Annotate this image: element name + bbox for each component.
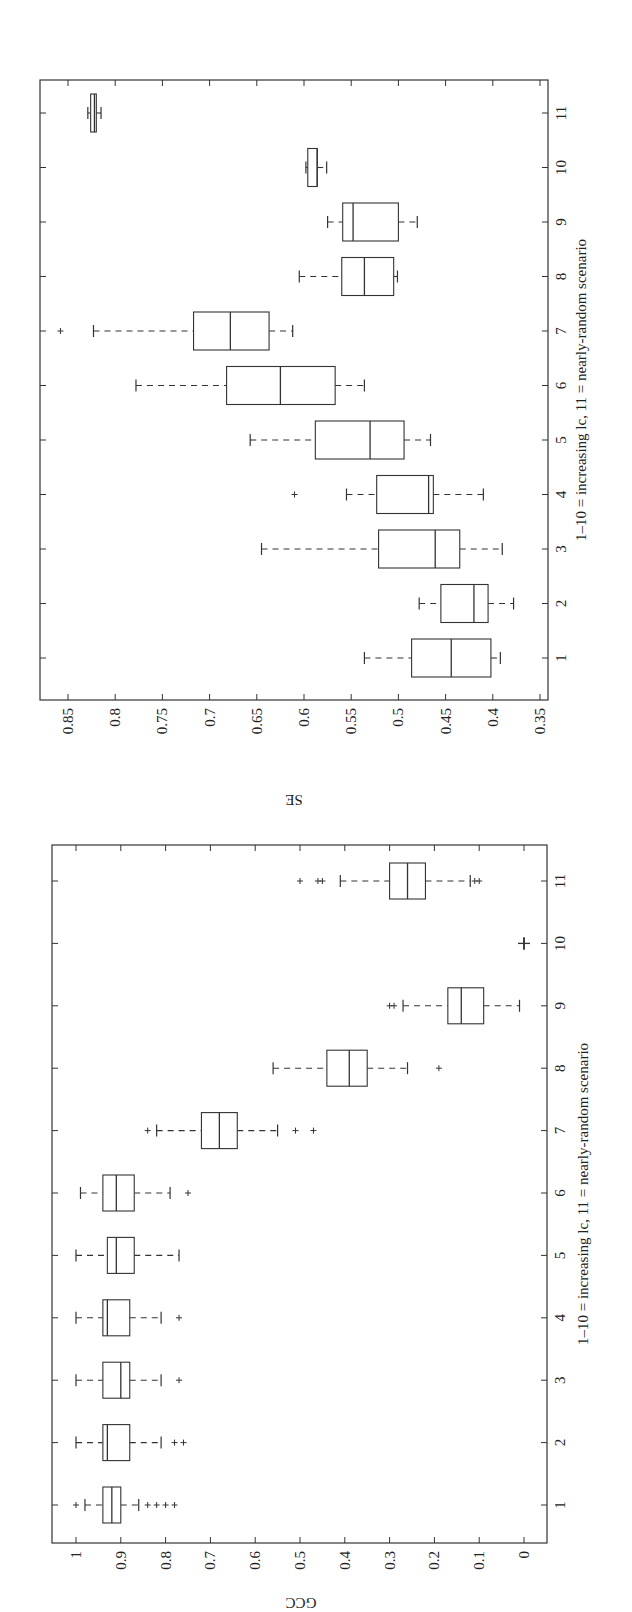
value-tick-label: 0.8 <box>158 1551 174 1570</box>
category-tick-label: 6 <box>552 1189 568 1197</box>
se-box-plot: 0.350.40.450.50.550.60.650.70.750.80.85 … <box>40 80 589 808</box>
value-tick-label: 0.1 <box>471 1551 487 1570</box>
category-tick-label: 10 <box>553 160 569 175</box>
value-tick-label: 0.85 <box>60 708 76 734</box>
box-7 <box>145 1113 317 1149</box>
value-tick-label: 0.5 <box>390 708 406 727</box>
box-9 <box>387 988 520 1024</box>
box-1 <box>364 639 500 677</box>
box-10 <box>306 149 327 187</box>
category-tick-label: 9 <box>552 1002 568 1010</box>
category-tick-label: 1 <box>553 654 569 662</box>
box-iqr <box>308 149 317 187</box>
gcc-category-axis-label: 1–10 = increasing lc, 11 = nearly-random… <box>575 1043 591 1345</box>
value-tick-label: 0.6 <box>247 1551 263 1570</box>
se-value-axis-ticks: 0.350.40.450.50.550.60.650.70.750.80.85 <box>60 80 548 734</box>
category-tick-label: 11 <box>552 874 568 888</box>
box-iqr <box>379 530 460 568</box>
box-9 <box>328 203 418 241</box>
box-2 <box>76 1425 187 1461</box>
category-tick-label: 5 <box>552 1252 568 1260</box>
box-iqr <box>194 312 270 350</box>
value-tick-label: 0.5 <box>292 1551 308 1570</box>
se-category-axis-label: 1–10 = increasing lc, 11 = nearly-random… <box>573 239 589 541</box>
box-iqr <box>448 988 484 1024</box>
value-tick-label: 0.6 <box>296 708 312 727</box>
box-1 <box>73 1487 178 1523</box>
box-3 <box>76 1362 182 1398</box>
se-boxes <box>57 94 513 677</box>
box-5 <box>76 1237 179 1273</box>
box-4 <box>292 476 484 514</box>
box-iqr <box>107 1237 134 1273</box>
category-tick-label: 11 <box>553 106 569 120</box>
value-tick-label: 0 <box>516 1551 532 1559</box>
value-tick-label: 0.55 <box>343 708 359 734</box>
category-tick-label: 3 <box>553 545 569 553</box>
category-tick-label: 4 <box>552 1314 568 1322</box>
value-tick-label: 0.7 <box>202 708 218 727</box>
se-axis-label: SE <box>285 792 303 808</box>
value-tick-label: 0.75 <box>154 708 170 734</box>
value-tick-label: 0.9 <box>113 1551 129 1570</box>
box-7 <box>57 312 292 350</box>
value-tick-label: 1 <box>68 1551 84 1559</box>
value-tick-label: 0.2 <box>426 1551 442 1570</box>
box-10 <box>518 937 530 949</box>
category-tick-label: 4 <box>553 490 569 498</box>
box-iqr <box>343 203 399 241</box>
value-tick-label: 0.35 <box>532 708 548 734</box>
value-tick-label: 0.4 <box>337 1551 353 1570</box>
box-iqr <box>103 1175 134 1211</box>
box-8 <box>299 258 397 296</box>
box-4 <box>76 1300 182 1336</box>
box-plots-figure: 0.350.40.450.50.550.60.650.70.750.80.85 … <box>0 0 632 1612</box>
box-3 <box>262 530 503 568</box>
category-tick-label: 5 <box>553 436 569 444</box>
box-iqr <box>342 258 394 296</box>
category-tick-label: 7 <box>553 327 569 335</box>
box-iqr <box>103 1362 130 1398</box>
value-tick-label: 0.8 <box>107 708 123 727</box>
value-tick-label: 0.3 <box>382 1551 398 1570</box>
category-tick-label: 1 <box>552 1501 568 1509</box>
box-2 <box>419 585 513 623</box>
box-iqr <box>91 94 97 132</box>
category-tick-label: 8 <box>553 273 569 281</box>
category-tick-label: 7 <box>552 1126 568 1134</box>
value-tick-label: 0.4 <box>485 708 501 727</box>
gcc-boxes <box>73 863 530 1523</box>
category-tick-label: 8 <box>552 1064 568 1072</box>
box-8 <box>273 1050 442 1086</box>
gcc-box-plot: 00.10.20.30.40.50.60.70.80.91 1234567891… <box>52 845 591 1611</box>
box-6 <box>136 367 364 405</box>
box-iqr <box>315 421 404 459</box>
box-6 <box>80 1175 191 1211</box>
category-tick-label: 10 <box>552 936 568 951</box>
box-11 <box>88 94 101 132</box>
value-tick-label: 0.7 <box>202 1551 218 1570</box>
box-iqr <box>327 1050 367 1086</box>
gcc-value-axis-ticks: 00.10.20.30.40.50.60.70.80.91 <box>68 845 532 1570</box>
gcc-axis-label: GCC <box>286 1595 317 1611</box>
category-tick-label: 3 <box>552 1376 568 1384</box>
box-iqr <box>441 585 488 623</box>
value-tick-label: 0.65 <box>249 708 265 734</box>
box-11 <box>297 863 482 899</box>
category-tick-label: 6 <box>553 381 569 389</box>
box-iqr <box>377 476 434 514</box>
category-tick-label: 2 <box>553 600 569 608</box>
box-5 <box>250 421 430 459</box>
category-tick-label: 9 <box>553 218 569 226</box>
value-tick-label: 0.45 <box>438 708 454 734</box>
category-tick-label: 2 <box>552 1439 568 1447</box>
